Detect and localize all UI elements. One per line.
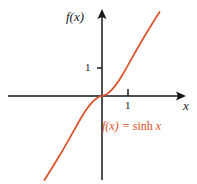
plot-canvas (0, 0, 197, 184)
curve-equation-label: f(x) = sinh x (102, 120, 161, 132)
sinh-function-graph-figure: f(x) x 1 1 f(x) = sinh x (0, 0, 197, 184)
equation-lhs: f(x) = (102, 119, 130, 133)
equation-function-name: sinh (133, 119, 153, 133)
equation-argument: x (156, 119, 161, 133)
x-axis-tick-label-1: 1 (125, 100, 131, 111)
y-axis-tick-label-1: 1 (85, 62, 91, 73)
x-axis-label: x (183, 99, 189, 112)
y-axis-label: f(x) (66, 10, 84, 23)
